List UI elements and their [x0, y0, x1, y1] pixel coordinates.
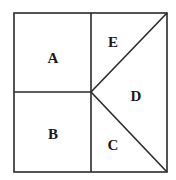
partition-diagram: A B C D E — [0, 0, 176, 180]
region-b-label: B — [48, 126, 58, 142]
lower-diagonal — [91, 92, 167, 172]
region-c-label: C — [108, 137, 119, 153]
region-e-label: E — [108, 34, 118, 50]
upper-diagonal — [91, 13, 167, 92]
region-a-label: A — [48, 50, 59, 66]
region-d-label: D — [131, 88, 142, 104]
